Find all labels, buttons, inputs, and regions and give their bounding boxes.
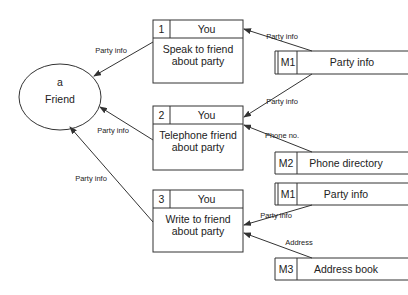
data-store-label: Party info <box>324 188 369 200</box>
entity-id: a <box>57 76 63 88</box>
flow-label: Party info <box>266 32 298 41</box>
data-store-m1-bottom[interactable]: M1 Party info <box>275 183 408 205</box>
process-description-line1: Speak to friend <box>163 43 234 55</box>
data-store-label: Address book <box>314 263 379 275</box>
process-number: 2 <box>159 109 165 121</box>
entity-friend[interactable]: a Friend <box>19 64 101 130</box>
flow-label: Party info <box>75 174 107 183</box>
data-store-id: M2 <box>279 157 294 169</box>
data-store-m3[interactable]: M3 Address book <box>275 258 408 280</box>
data-store-id: M1 <box>281 188 296 200</box>
flow-label: Party info <box>260 211 292 220</box>
data-store-id: M1 <box>281 56 296 68</box>
flow-m1-to-process-3: Party info <box>244 205 312 225</box>
flow-m3-to-process-3: Address <box>244 233 313 258</box>
data-flow-diagram: a Friend 1 You Speak to friend about par… <box>0 0 408 295</box>
flow-m1-to-process-2: Party info <box>244 74 312 117</box>
process-description-line1: Write to friend <box>165 213 230 225</box>
flow-label: Phone no. <box>265 131 299 140</box>
process-description-line1: Telephone friend <box>159 129 237 141</box>
flow-label: Address <box>285 238 313 247</box>
data-store-label: Phone directory <box>309 157 383 169</box>
data-store-id: M3 <box>279 263 294 275</box>
process-description-line2: about party <box>172 141 225 153</box>
process-description-line2: about party <box>172 225 225 237</box>
process-actor: You <box>198 193 216 205</box>
flow-process-3-to-friend: Party info <box>70 127 153 222</box>
data-store-m1-top[interactable]: M1 Party info <box>275 51 408 74</box>
process-actor: You <box>198 23 216 35</box>
flow-label: Party info <box>97 126 129 135</box>
flow-m2-to-process-2: Phone no. <box>244 125 312 152</box>
process-number: 1 <box>159 23 165 35</box>
process-actor: You <box>198 109 216 121</box>
process-3[interactable]: 3 You Write to friend about party <box>153 190 243 252</box>
data-store-label: Party info <box>330 56 375 68</box>
process-description-line2: about party <box>172 55 225 67</box>
process-2[interactable]: 2 You Telephone friend about party <box>153 106 243 170</box>
process-number: 3 <box>159 193 165 205</box>
data-store-m2[interactable]: M2 Phone directory <box>275 152 408 174</box>
process-1[interactable]: 1 You Speak to friend about party <box>153 20 243 83</box>
entity-label: Friend <box>45 93 75 105</box>
flow-label: Party info <box>95 46 127 55</box>
flow-m1-to-process-1: Party info <box>244 29 312 51</box>
flow-process-2-to-friend: Party info <box>97 107 153 140</box>
flow-process-1-to-friend: Party info <box>94 42 153 76</box>
flow-label: Party info <box>266 97 298 106</box>
